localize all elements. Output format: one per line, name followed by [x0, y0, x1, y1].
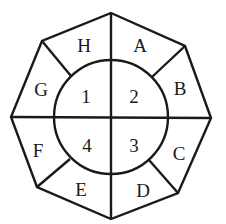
region-label-c: C: [173, 143, 186, 164]
region-label-g: G: [34, 79, 48, 100]
region-label-f: F: [33, 140, 44, 161]
quadrant-label-4: 4: [82, 135, 92, 156]
horizontal-divider: [11, 117, 211, 118]
spoke-ne: [152, 46, 185, 77]
quadrant-label-2: 2: [129, 86, 139, 107]
region-label-d: D: [136, 180, 150, 201]
spoke-nw: [42, 41, 71, 76]
region-label-a: A: [133, 35, 147, 56]
spoke-se: [149, 160, 178, 193]
region-label-b: B: [174, 78, 187, 99]
octagon-diagram: A B C D E F G H 1 2 3 4: [0, 0, 226, 224]
quadrant-label-1: 1: [81, 86, 91, 107]
region-label-h: H: [77, 35, 91, 56]
region-label-e: E: [75, 179, 87, 200]
quadrant-label-3: 3: [129, 135, 139, 156]
spoke-sw: [37, 159, 70, 187]
